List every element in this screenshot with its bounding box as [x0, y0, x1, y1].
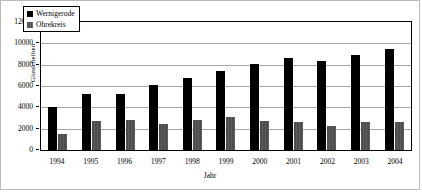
bar-wernigerode-1998 [183, 78, 192, 151]
bar-ohrekreis-1995 [92, 121, 101, 150]
x-tick-label: 2003 [344, 152, 378, 168]
bar-wernigerode-2004 [385, 49, 394, 150]
bar-ohrekreis-2000 [260, 121, 269, 150]
bar-ohrekreis-1999 [226, 117, 235, 150]
bar-wernigerode-2003 [351, 55, 360, 150]
x-tick-label: 1999 [209, 152, 243, 168]
bar-group [385, 22, 404, 150]
bar-wernigerode-1997 [149, 85, 158, 150]
y-tick-mark [36, 106, 39, 107]
bar-wernigerode-2002 [317, 61, 326, 150]
x-tick-label: 2004 [378, 152, 412, 168]
bar-group [317, 22, 336, 150]
legend-swatch-icon [27, 22, 33, 28]
bar-ohrekreis-1998 [193, 120, 202, 150]
x-tick-label: 1995 [74, 152, 108, 168]
y-tick-label: 10000 [14, 38, 33, 47]
legend-item-wernigerode: Wernigerode [27, 9, 75, 18]
bar-ohrekreis-1997 [159, 124, 168, 150]
bar-group [82, 22, 101, 150]
chart-figure: Glasscheiben 020004000600080001000012000… [0, 0, 420, 190]
x-tick-label: 1994 [40, 152, 74, 168]
legend-label: Wernigerode [36, 9, 75, 18]
bar-group [216, 22, 235, 150]
y-tick-mark [36, 149, 39, 150]
plot-area [40, 21, 412, 151]
bar-ohrekreis-2001 [294, 122, 303, 150]
bar-ohrekreis-1994 [58, 134, 67, 151]
bar-ohrekreis-2002 [327, 126, 336, 151]
bar-groups [41, 22, 411, 150]
bar-wernigerode-2000 [250, 64, 259, 150]
bar-group [116, 22, 135, 150]
x-tick-label: 2000 [243, 152, 277, 168]
bar-group [284, 22, 303, 150]
y-tick-label: 2000 [18, 123, 33, 132]
x-axis-ticks: 1994199519961997199819992000200120022003… [40, 152, 412, 168]
y-tick-mark [36, 128, 39, 129]
x-tick-label: 2001 [277, 152, 311, 168]
bar-wernigerode-1995 [82, 94, 91, 151]
x-tick-label: 1996 [108, 152, 142, 168]
legend-item-ohrekreis: Ohrekreis [27, 20, 75, 29]
bar-ohrekreis-2004 [395, 122, 404, 150]
bar-group [351, 22, 370, 150]
bar-wernigerode-1996 [116, 94, 125, 150]
x-tick-label: 2002 [311, 152, 345, 168]
legend-label: Ohrekreis [36, 20, 66, 29]
y-tick-mark [36, 42, 39, 43]
bar-ohrekreis-1996 [126, 120, 135, 150]
bar-ohrekreis-2003 [361, 122, 370, 150]
y-tick-label: 8000 [18, 59, 33, 68]
x-axis-title: Jahr [1, 171, 419, 180]
y-tick-label: 0 [29, 145, 33, 154]
y-tick-label: 6000 [18, 81, 33, 90]
x-tick-label: 1997 [141, 152, 175, 168]
y-tick-mark [36, 64, 39, 65]
bar-group [250, 22, 269, 150]
bar-wernigerode-1994 [48, 107, 57, 150]
bar-wernigerode-1999 [216, 71, 225, 150]
legend: WernigerodeOhrekreis [23, 6, 80, 32]
bar-group [183, 22, 202, 150]
bar-wernigerode-2001 [284, 58, 293, 150]
x-tick-label: 1998 [175, 152, 209, 168]
bar-group [48, 22, 67, 150]
y-tick-label: 4000 [18, 102, 33, 111]
y-tick-mark [36, 85, 39, 86]
bar-group [149, 22, 168, 150]
legend-swatch-icon [27, 11, 33, 17]
